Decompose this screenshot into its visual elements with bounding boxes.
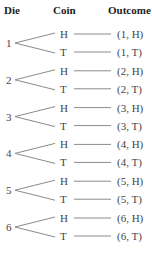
coin-value: H — [60, 65, 68, 77]
outcome-value: (5, H) — [117, 175, 143, 187]
coin-value: H — [60, 138, 68, 150]
outcome-value: (3, T) — [117, 120, 142, 132]
outcome-value: (4, T) — [117, 156, 142, 168]
branch-line — [15, 80, 55, 90]
branch-line — [15, 143, 55, 153]
branch-line — [15, 153, 55, 163]
coin-value: H — [60, 102, 68, 114]
die-value: 2 — [6, 74, 12, 86]
coin-value: H — [60, 212, 68, 224]
die-value: 1 — [6, 37, 12, 49]
outcome-value: (1, T) — [117, 46, 142, 58]
outcome-value: (5, T) — [117, 193, 142, 205]
outcome-value: (4, H) — [117, 138, 143, 150]
die-value: 5 — [6, 184, 12, 196]
branch-line — [15, 180, 55, 190]
outcome-value: (6, H) — [117, 212, 143, 224]
branch-line — [15, 33, 55, 43]
outcome-value: (2, T) — [117, 83, 142, 95]
branch-line — [15, 217, 55, 227]
coin-value: T — [60, 156, 67, 168]
outcome-value: (6, T) — [117, 230, 142, 242]
branch-line — [15, 107, 55, 117]
coin-value: H — [60, 175, 68, 187]
branch-line — [15, 43, 55, 53]
branch-line — [15, 117, 55, 127]
coin-value: T — [60, 230, 67, 242]
outcome-value: (3, H) — [117, 102, 143, 114]
branch-line — [15, 190, 55, 200]
outcome-value: (2, H) — [117, 65, 143, 77]
outcome-value: (1, H) — [117, 28, 143, 40]
coin-value: T — [60, 46, 67, 58]
die-value: 3 — [6, 111, 12, 123]
coin-value: H — [60, 28, 68, 40]
coin-value: T — [60, 193, 67, 205]
coin-value: T — [60, 120, 67, 132]
die-value: 4 — [6, 147, 12, 159]
die-value: 6 — [6, 221, 12, 233]
branch-line — [15, 70, 55, 80]
branch-line — [15, 227, 55, 237]
coin-value: T — [60, 83, 67, 95]
